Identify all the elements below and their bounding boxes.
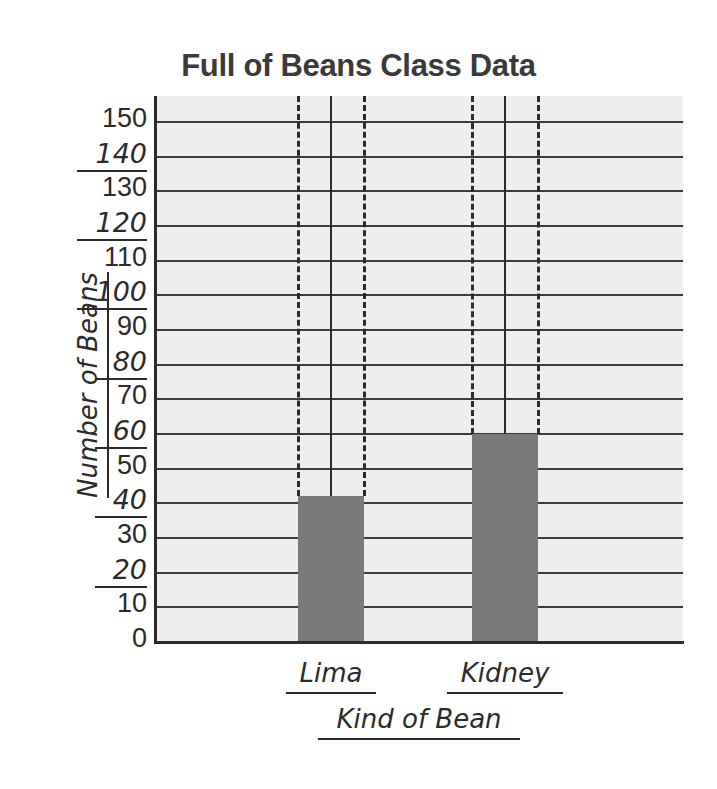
chart-page: { "chart_data": { "type": "bar", "title"… (0, 0, 717, 789)
bar-edge-guide-line-lima-left (297, 96, 300, 496)
gridline (155, 225, 683, 227)
bar-edge-guide-line-kidney-left (471, 96, 474, 434)
y-axis-title-text: Number of Beans (73, 272, 109, 498)
y-axis-title: Number of Beans (73, 235, 103, 535)
plot-area (155, 96, 683, 642)
x-axis-title-text: Kind of Bean (318, 704, 519, 740)
gridline (155, 398, 683, 400)
y-tick-label-text: 30 (117, 521, 147, 548)
gridline (155, 121, 683, 123)
y-tick-label-20: 20 (5, 556, 155, 588)
y-tick-label-text: 110 (104, 244, 147, 271)
gridline (155, 329, 683, 331)
gridline (155, 364, 683, 366)
y-tick-label-10: 10 (5, 590, 155, 617)
y-tick-label-text: 50 (117, 452, 147, 479)
bar-center-guide-line-lima (330, 96, 332, 496)
x-axis-line (154, 641, 684, 644)
gridline (155, 537, 683, 539)
y-tick-label-text: 130 (102, 174, 147, 201)
gridline (155, 190, 683, 192)
y-tick-label-140: 140 (5, 140, 155, 172)
y-tick-label-text: 0 (132, 625, 147, 652)
x-category-label-kidney: Kidney (395, 658, 615, 688)
y-tick-label-0: 0 (5, 625, 155, 652)
bar-edge-guide-line-kidney-right (537, 96, 540, 434)
gridline (155, 260, 683, 262)
y-tick-label-text: 90 (117, 313, 147, 340)
x-category-label-kidney-text: Kidney (447, 658, 564, 694)
x-axis-title: Kind of Bean (155, 704, 683, 734)
bar-kidney[interactable] (472, 434, 538, 642)
gridline (155, 468, 683, 470)
gridline (155, 502, 683, 504)
y-tick-label-130: 130 (5, 174, 155, 201)
bar-lima[interactable] (298, 496, 364, 642)
y-tick-label-150: 150 (5, 105, 155, 132)
gridline (155, 156, 683, 158)
gridline (155, 606, 683, 608)
gridline (155, 294, 683, 296)
y-tick-label-text: 150 (102, 105, 147, 132)
gridline (155, 572, 683, 574)
y-tick-label-text: 140 (77, 140, 147, 172)
y-tick-label-text: 10 (117, 590, 147, 617)
bar-center-guide-line-kidney (504, 96, 506, 434)
x-category-label-lima-text: Lima (286, 658, 377, 694)
y-tick-label-text: 70 (117, 382, 147, 409)
gridline (155, 433, 683, 435)
y-tick-label-text: 20 (95, 556, 147, 588)
bar-edge-guide-line-lima-right (363, 96, 366, 496)
